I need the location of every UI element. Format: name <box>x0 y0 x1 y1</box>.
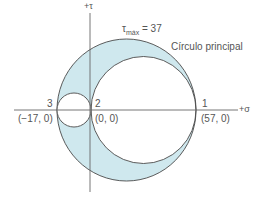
point-3-id: 3 <box>47 99 53 109</box>
tau-max-value: = 37 <box>142 23 162 34</box>
point-1-id: 1 <box>202 99 208 109</box>
principal-circle-label: Círculo principal <box>171 42 243 52</box>
tau-axis-label: +τ <box>84 2 93 11</box>
point-2-coord: (0, 0) <box>95 114 118 124</box>
point-1-coord: (57, 0) <box>201 114 230 124</box>
point-3-coord: (−17, 0) <box>18 114 53 124</box>
sigma-axis-label: +σ <box>239 105 250 114</box>
tau-max-label: τmáx = 37 <box>122 24 162 36</box>
point-2-id: 2 <box>95 99 101 109</box>
tau-max-subscript: máx <box>126 29 139 36</box>
